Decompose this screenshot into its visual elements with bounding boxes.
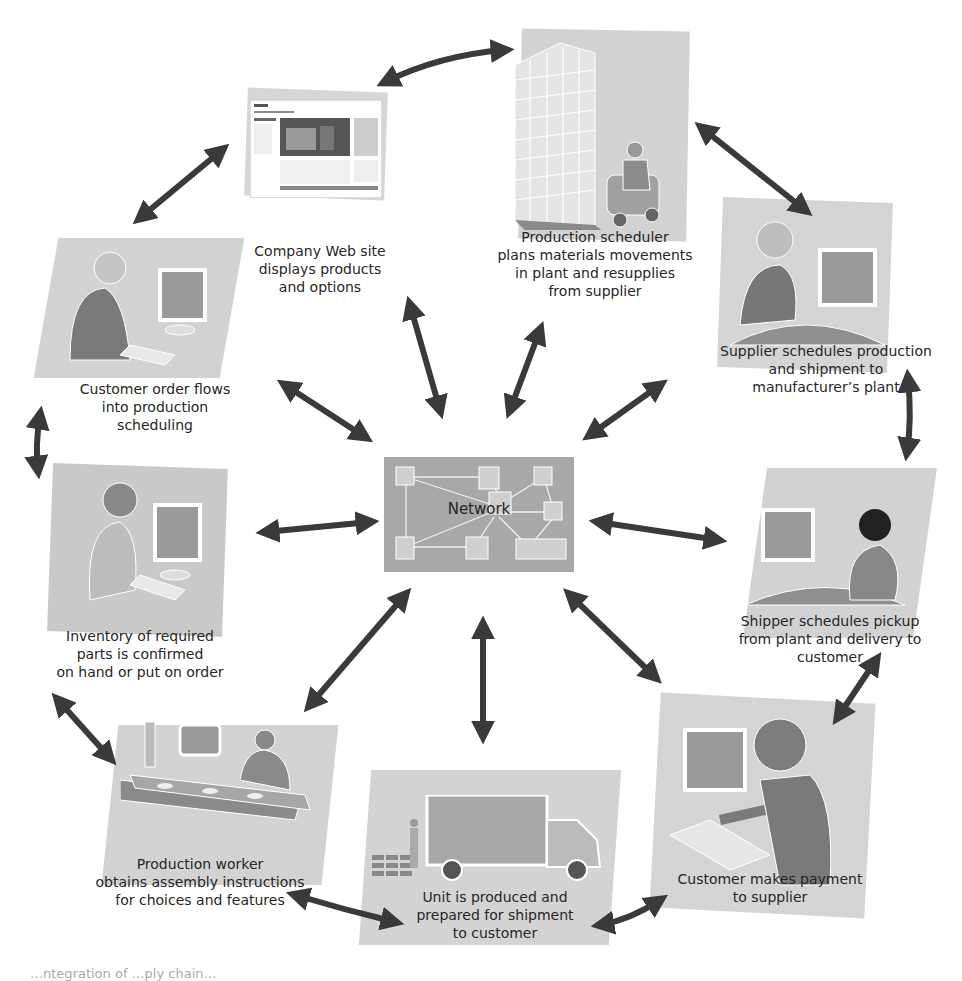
node-label-payment: Customer makes payment to supplier <box>670 870 870 906</box>
pallet-forklift-icon <box>505 35 685 230</box>
node-label-shipper: Shipper schedules pickup from plant and … <box>700 612 960 666</box>
arrow-order-website <box>140 150 222 218</box>
customer-order-person-computer-icon <box>65 250 215 370</box>
inventory-person-computer-icon <box>65 480 205 610</box>
arrow-hub-order <box>285 385 365 437</box>
node-label-inventory: Inventory of required parts is confirmed… <box>25 627 255 681</box>
arrow-website-scheduler <box>385 50 505 82</box>
customer-payment-icon <box>670 710 860 890</box>
node-label-website: Company Web site displays products and o… <box>240 242 400 296</box>
node-label-unit: Unit is produced and prepared for shipme… <box>395 888 595 942</box>
arrow-hub-worker <box>310 595 405 705</box>
arrow-hub-inventory <box>265 522 370 532</box>
arrow-inventory-order <box>37 415 40 470</box>
node-label-supplier: Supplier schedules production and shipme… <box>690 342 962 396</box>
node-label-scheduler: Production scheduler plans materials mov… <box>470 228 720 300</box>
arrow-hub-website <box>410 305 440 410</box>
supplier-person-computer-icon <box>725 210 885 350</box>
arrow-hub-payment <box>570 595 655 677</box>
arrow-hub-supplier <box>590 385 660 435</box>
node-label-worker: Production worker obtains assembly instr… <box>65 855 335 909</box>
delivery-truck-icon <box>372 795 612 885</box>
network-label: Network <box>384 500 574 518</box>
arrow-hub-shipper <box>598 522 718 540</box>
website-screenshot-icon <box>250 100 382 198</box>
arrow-hub-scheduler <box>510 330 540 410</box>
figure-caption-fragment: …ntegration of …ply chain… <box>30 966 217 981</box>
shipper-person-computer-icon <box>745 500 915 610</box>
node-label-order: Customer order flows into production sch… <box>55 380 255 434</box>
arrow-worker-inventory <box>58 700 110 758</box>
assembly-line-worker-icon <box>120 720 330 835</box>
